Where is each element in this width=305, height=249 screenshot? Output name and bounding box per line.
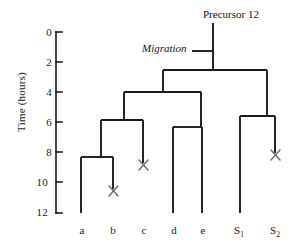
- tree-drawing-canvas: [0, 0, 305, 249]
- tree-branches-group: [81, 23, 275, 213]
- y-axis-group: [56, 32, 62, 213]
- extinction-markers-group: [109, 150, 280, 196]
- phylogenetic-tree-figure: Time (hours) 0 2 4 6 8 10 12 Precursor 1…: [0, 0, 305, 249]
